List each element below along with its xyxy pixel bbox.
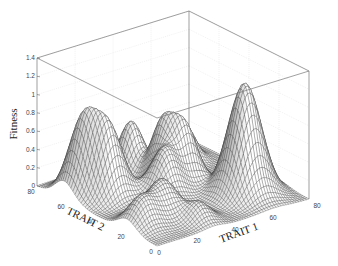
z-axis-label: Fitness bbox=[7, 108, 19, 139]
x-tick-label: 0 bbox=[157, 249, 161, 256]
axis-box-front bbox=[37, 58, 309, 118]
y-tick-label: 80 bbox=[27, 188, 35, 195]
z-tick-label: 0.4 bbox=[26, 146, 35, 153]
x-tick-label: 60 bbox=[269, 214, 277, 221]
x-tick-label: 80 bbox=[313, 202, 321, 209]
y-tick-label: 60 bbox=[57, 203, 65, 210]
x-tick-label: 20 bbox=[193, 237, 201, 244]
y-tick-label: 0 bbox=[149, 248, 153, 255]
z-tick-label: 0.2 bbox=[26, 164, 35, 171]
fitness-surface-plot: 00.20.40.60.811.21.4 020406080 020406080… bbox=[0, 0, 338, 266]
z-axis-ticks: 00.20.40.60.811.21.4 bbox=[26, 54, 40, 189]
z-tick-label: 1.4 bbox=[26, 54, 35, 61]
z-tick-label: 0.8 bbox=[26, 109, 35, 116]
y-tick-label: 20 bbox=[117, 233, 125, 240]
z-tick-label: 1 bbox=[31, 91, 35, 98]
z-tick-label: 1.2 bbox=[26, 72, 35, 79]
z-tick-label: 0.6 bbox=[26, 127, 35, 134]
